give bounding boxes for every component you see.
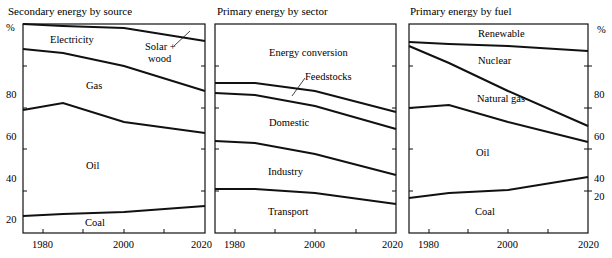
industry-domestic-line	[215, 141, 396, 175]
nuclear-renewable-line	[409, 42, 588, 51]
y-ticks	[409, 66, 592, 191]
y-tick-80: 80	[6, 89, 17, 100]
coal-oil-line	[23, 206, 205, 216]
panel-primary-fuel: Primary energy by fuel % 80 60 40 20 198…	[409, 5, 606, 250]
x-ticks	[235, 229, 356, 233]
panel-primary-sector: Primary energy by sector 1980 2000 2020 …	[215, 5, 403, 250]
x-tick-2000: 2000	[304, 239, 325, 250]
y-unit-label: %	[597, 24, 606, 35]
y-tick-20: 20	[6, 214, 17, 225]
panel-secondary-energy: Secondary energy by source % 80 60 40 20…	[6, 5, 212, 250]
y-tick-40: 40	[594, 173, 605, 184]
panel-title: Primary energy by fuel	[410, 5, 512, 17]
boundary-lines	[215, 83, 396, 204]
label-renewable: Renewable	[478, 28, 525, 39]
boundary-lines	[23, 24, 205, 216]
label-coal: Coal	[85, 217, 105, 228]
oil-gas-line	[409, 105, 588, 142]
label-industry: Industry	[268, 166, 304, 177]
label-electricity: Electricity	[50, 34, 94, 45]
label-oil: Oil	[476, 147, 490, 158]
label-transport: Transport	[268, 206, 309, 217]
label-wood: wood	[148, 53, 172, 64]
y-tick-20: 20	[594, 191, 605, 202]
x-tick-2000: 2000	[497, 239, 518, 250]
x-tick-1980: 1980	[418, 239, 439, 250]
label-feedstocks: Feedstocks	[305, 71, 352, 82]
x-tick-2020: 2020	[382, 239, 403, 250]
coal-oil-line	[409, 177, 588, 198]
y-unit-label: %	[6, 22, 15, 33]
energy-charts: Secondary energy by source % 80 60 40 20…	[0, 0, 612, 258]
x-tick-2020: 2020	[191, 239, 212, 250]
panel-title: Secondary energy by source	[8, 5, 132, 17]
x-tick-1980: 1980	[224, 239, 245, 250]
label-natural-gas: Natural gas	[477, 93, 525, 104]
y-tick-60: 60	[594, 131, 605, 142]
label-solar: Solar +	[145, 41, 176, 52]
label-gas: Gas	[86, 80, 102, 91]
x-ticks	[429, 229, 548, 233]
panel-title: Primary energy by sector	[217, 5, 328, 17]
y-tick-60: 60	[6, 131, 17, 142]
x-tick-2020: 2020	[578, 239, 599, 250]
y-tick-80: 80	[594, 89, 605, 100]
gas-electricity-line	[23, 49, 205, 91]
oil-gas-line	[23, 103, 205, 133]
label-domestic: Domestic	[269, 117, 310, 128]
label-coal: Coal	[475, 206, 495, 217]
y-ticks	[215, 66, 396, 191]
x-tick-2000: 2000	[113, 239, 134, 250]
x-tick-1980: 1980	[32, 239, 53, 250]
label-oil: Oil	[86, 160, 100, 171]
y-tick-40: 40	[6, 173, 17, 184]
label-energy-conversion: Energy conversion	[269, 47, 349, 58]
label-nuclear: Nuclear	[478, 55, 512, 66]
feedstocks-conversion-line	[215, 83, 396, 112]
feedstocks-leader-line	[292, 78, 305, 96]
x-ticks	[43, 229, 164, 233]
transport-industry-line	[215, 189, 396, 204]
